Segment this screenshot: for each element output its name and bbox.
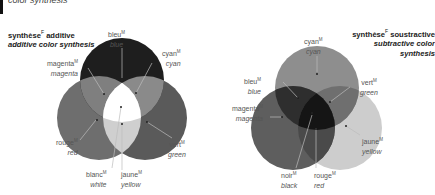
label-blue-additive: bleuM blue — [108, 28, 125, 49]
label-green-additive: vertM green — [168, 138, 186, 159]
label-yellow-subtractive: jauneM yellow — [362, 135, 383, 156]
label-yellow-additive: jauneM yellow — [121, 168, 142, 189]
label-white-additive: blancM white — [86, 168, 106, 189]
label-green-subtractive: vertM green — [360, 76, 378, 97]
label-magenta-additive: magentaM magenta — [47, 57, 78, 78]
label-cyan-subtractive: cyanM cyan — [304, 35, 323, 56]
label-red-subtractive: rougeM red — [314, 169, 336, 190]
label-cyan-additive: cyanM cyan — [162, 47, 181, 68]
label-red-additive: rougeM red — [56, 136, 78, 157]
label-blue-subtractive: bleuM blue — [244, 75, 261, 96]
label-magenta-subtractive: magentaM magenta — [232, 102, 263, 123]
label-black-subtractive: noirM black — [281, 169, 297, 190]
